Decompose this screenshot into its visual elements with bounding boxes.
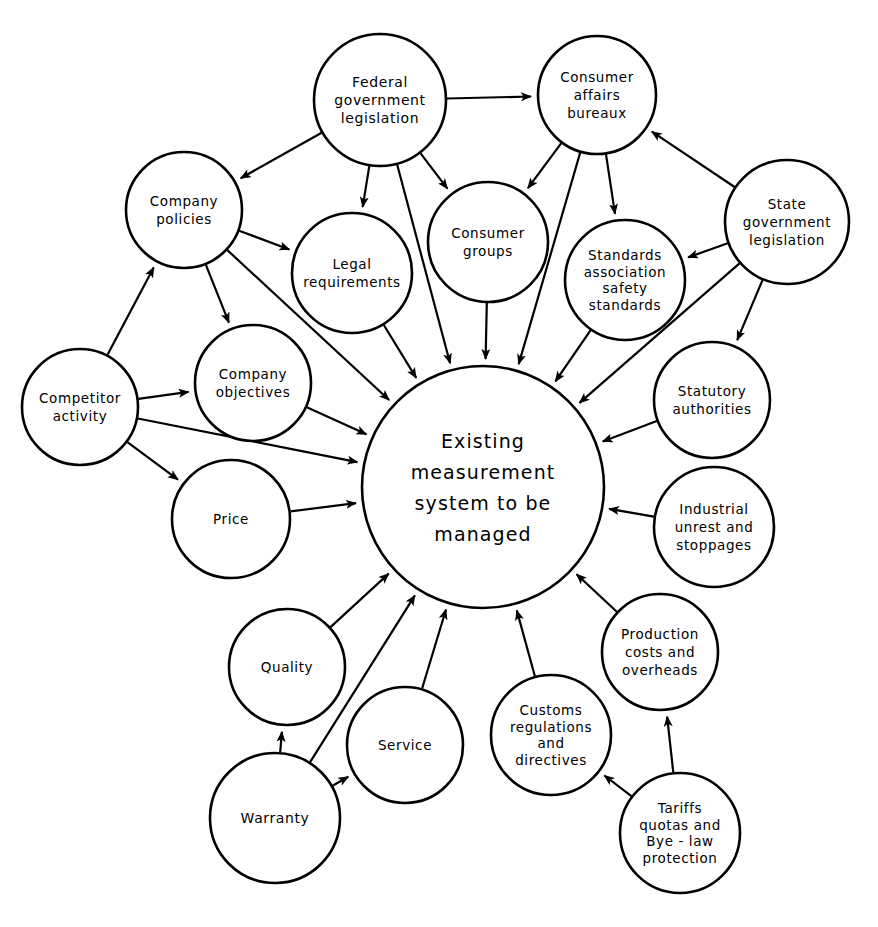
- edge-competitor-activity-to-company-objectives: [138, 392, 188, 399]
- node-label-service: Service: [378, 737, 432, 753]
- edge-statutory-authorities-to-center: [603, 421, 657, 442]
- node-company-policies[interactable]: Companypolicies: [126, 152, 242, 268]
- node-quality[interactable]: Quality: [229, 609, 345, 725]
- edge-legal-requirements-to-center: [384, 325, 416, 378]
- edge-state-government-legislation-to-statutory-authorities: [737, 280, 762, 340]
- node-circle-competitor-activity[interactable]: [22, 349, 138, 465]
- node-customs-regulations-and-directives[interactable]: Customsregulationsanddirectives: [491, 675, 611, 795]
- edge-industrial-unrest-and-stoppages-to-center: [609, 509, 654, 517]
- node-legal-requirements[interactable]: Legalrequirements: [292, 213, 412, 333]
- edge-state-government-legislation-to-standards-association-safety-standards: [688, 243, 728, 257]
- node-label-price: Price: [213, 511, 249, 527]
- node-warranty[interactable]: Warranty: [210, 753, 340, 883]
- influence-diagram: FederalgovernmentlegislationConsumeraffa…: [0, 0, 878, 927]
- edge-consumer-affairs-bureaux-to-standards-association-safety-standards: [606, 154, 615, 214]
- node-center[interactable]: Existingmeasurementsystem to bemanaged: [362, 366, 604, 608]
- node-label-industrial-unrest-and-stoppages: Industrialunrest andstoppages: [675, 501, 754, 553]
- node-circle-company-policies[interactable]: [126, 152, 242, 268]
- edge-service-to-center: [422, 610, 446, 689]
- node-production-costs-and-overheads[interactable]: Productioncosts andoverheads: [602, 594, 718, 710]
- node-service[interactable]: Service: [347, 687, 463, 803]
- edge-federal-government-legislation-to-company-policies: [241, 133, 322, 178]
- node-statutory-authorities[interactable]: Statutoryauthorities: [654, 342, 770, 458]
- edge-tariffs-quotas-and-bye-law-protection-to-production-costs-and-overheads: [667, 717, 673, 773]
- edge-tariffs-quotas-and-bye-law-protection-to-customs-regulations-and-directives: [604, 776, 631, 797]
- edge-quality-to-center: [331, 574, 389, 628]
- edge-federal-government-legislation-to-consumer-affairs-bureaux: [447, 97, 531, 99]
- edge-warranty-to-service: [333, 777, 349, 786]
- nodes-layer: FederalgovernmentlegislationConsumeraffa…: [22, 34, 849, 893]
- node-federal-government-legislation[interactable]: Federalgovernmentlegislation: [314, 34, 446, 166]
- node-label-production-costs-and-overheads: Productioncosts andoverheads: [621, 626, 699, 678]
- node-competitor-activity[interactable]: Competitoractivity: [22, 349, 138, 465]
- node-state-government-legislation[interactable]: Stategovernmentlegislation: [725, 160, 849, 284]
- edge-company-objectives-to-center: [307, 407, 367, 434]
- edge-federal-government-legislation-to-consumer-groups: [421, 153, 448, 188]
- edge-production-costs-and-overheads-to-center: [577, 574, 617, 612]
- edge-competitor-activity-to-company-policies: [108, 268, 154, 355]
- edge-warranty-to-quality: [280, 732, 282, 752]
- edge-company-policies-to-legal-requirements: [239, 231, 289, 250]
- node-circle-legal-requirements[interactable]: [292, 213, 412, 333]
- node-label-quality: Quality: [261, 659, 313, 675]
- edge-competitor-activity-to-price: [127, 442, 178, 480]
- node-price[interactable]: Price: [172, 460, 290, 578]
- node-tariffs-quotas-and-bye-law-protection[interactable]: Tariffsquotas andBye - lawprotection: [620, 773, 740, 893]
- node-circle-statutory-authorities[interactable]: [654, 342, 770, 458]
- node-standards-association-safety-standards[interactable]: Standardsassociationsafetystandards: [565, 220, 685, 340]
- node-circle-company-objectives[interactable]: [195, 325, 311, 441]
- node-consumer-affairs-bureaux[interactable]: Consumeraffairsbureaux: [538, 36, 656, 154]
- edge-federal-government-legislation-to-legal-requirements: [363, 166, 370, 207]
- node-label-warranty: Warranty: [241, 810, 310, 826]
- edge-price-to-center: [291, 503, 357, 511]
- edge-consumer-affairs-bureaux-to-consumer-groups: [528, 143, 561, 188]
- edge-customs-regulations-and-directives-to-center: [517, 610, 535, 676]
- node-consumer-groups[interactable]: Consumergroups: [428, 182, 548, 302]
- edge-standards-association-safety-standards-to-center: [555, 330, 590, 381]
- edge-consumer-groups-to-center: [486, 303, 487, 359]
- node-company-objectives[interactable]: Companyobjectives: [195, 325, 311, 441]
- node-industrial-unrest-and-stoppages[interactable]: Industrialunrest andstoppages: [654, 467, 774, 587]
- edge-company-policies-to-company-objectives: [206, 265, 229, 323]
- edge-state-government-legislation-to-consumer-affairs-bureaux: [652, 132, 735, 187]
- diagram-canvas: FederalgovernmentlegislationConsumeraffa…: [0, 0, 878, 927]
- node-circle-consumer-groups[interactable]: [428, 182, 548, 302]
- node-circle-center[interactable]: [362, 366, 604, 608]
